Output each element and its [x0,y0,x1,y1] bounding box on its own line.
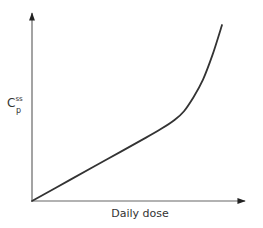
y-axis-label-sub: p [16,106,21,115]
y-label-sup: ss [15,95,23,103]
y-label-main: C [7,96,15,110]
chart: Css p Daily dose [0,0,263,228]
concentration-curve [32,25,222,201]
x-axis-label: Daily dose [111,207,169,220]
